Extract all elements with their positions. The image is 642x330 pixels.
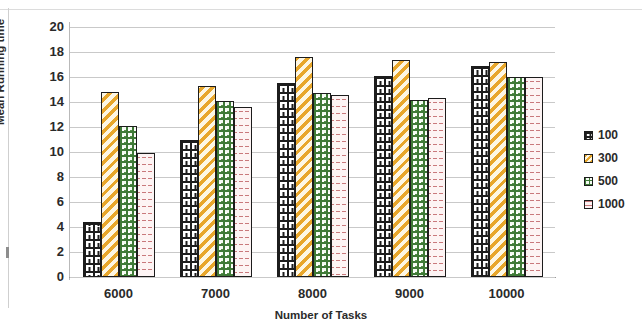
legend: 1003005001000 xyxy=(584,128,642,220)
bar-group-8000 xyxy=(264,27,361,277)
x-tick-10000: 10000 xyxy=(458,286,555,304)
legend-swatch-300-icon xyxy=(584,154,593,163)
bar-9000-300[interactable] xyxy=(392,60,410,278)
bar-10000-1000[interactable] xyxy=(525,77,543,277)
y-tick-10: 10 xyxy=(38,145,64,158)
legend-label-500: 500 xyxy=(598,175,618,187)
bar-chart: Mean Running time 20 18 16 14 12 10 8 6 … xyxy=(0,0,642,330)
x-axis-tick-labels: 600070008000900010000 xyxy=(70,286,555,304)
bar-7000-500[interactable] xyxy=(216,101,234,277)
legend-item-1000[interactable]: 1000 xyxy=(584,197,642,211)
bar-6000-100[interactable] xyxy=(83,222,101,277)
x-tick-6000: 6000 xyxy=(70,286,167,304)
bar-9000-500[interactable] xyxy=(410,100,428,278)
legend-item-500[interactable]: 500 xyxy=(584,174,642,188)
bar-10000-100[interactable] xyxy=(471,66,489,277)
bar-7000-100[interactable] xyxy=(180,140,198,278)
scan-artifact-horizontal xyxy=(0,9,642,10)
legend-item-100[interactable]: 100 xyxy=(584,128,642,142)
bar-8000-300[interactable] xyxy=(295,57,313,277)
bar-8000-1000[interactable] xyxy=(331,95,349,278)
legend-label-1000: 1000 xyxy=(598,198,625,210)
y-tick-14: 14 xyxy=(38,95,64,108)
scan-artifact-tick xyxy=(6,247,9,258)
scan-artifact-vertical xyxy=(8,8,9,308)
x-axis-title: Number of Tasks xyxy=(0,309,642,321)
bar-8000-500[interactable] xyxy=(313,93,331,277)
y-tick-0: 0 xyxy=(38,270,64,283)
bar-6000-500[interactable] xyxy=(119,126,137,277)
bar-group-7000 xyxy=(167,27,264,277)
bar-7000-300[interactable] xyxy=(198,86,216,277)
bar-group-9000 xyxy=(361,27,458,277)
bar-groups xyxy=(70,27,555,277)
y-tick-4: 4 xyxy=(38,220,64,233)
legend-label-100: 100 xyxy=(598,129,618,141)
bar-6000-300[interactable] xyxy=(101,92,119,277)
bar-7000-1000[interactable] xyxy=(234,107,252,277)
y-axis-tick-labels: 20 18 16 14 12 10 8 6 4 2 0 xyxy=(36,20,64,282)
legend-swatch-1000-icon xyxy=(584,200,593,209)
y-tick-6: 6 xyxy=(38,195,64,208)
bar-9000-1000[interactable] xyxy=(428,98,446,277)
y-axis-title: Mean Running time xyxy=(0,19,6,125)
legend-swatch-100-icon xyxy=(584,131,593,140)
bar-group-10000 xyxy=(458,27,555,277)
legend-swatch-500-icon xyxy=(584,177,593,186)
x-tick-7000: 7000 xyxy=(167,286,264,304)
x-tick-9000: 9000 xyxy=(361,286,458,304)
legend-item-300[interactable]: 300 xyxy=(584,151,642,165)
bar-10000-500[interactable] xyxy=(507,77,525,277)
y-tick-8: 8 xyxy=(38,170,64,183)
bar-9000-100[interactable] xyxy=(374,76,392,277)
y-tick-16: 16 xyxy=(38,70,64,83)
bar-8000-100[interactable] xyxy=(277,83,295,277)
legend-label-300: 300 xyxy=(598,152,618,164)
bar-10000-300[interactable] xyxy=(489,62,507,277)
bar-6000-1000[interactable] xyxy=(137,153,155,277)
gridline-0 xyxy=(70,277,555,278)
y-tick-12: 12 xyxy=(38,120,64,133)
bar-group-6000 xyxy=(70,27,167,277)
plot-area xyxy=(70,27,555,277)
x-tick-8000: 8000 xyxy=(264,286,361,304)
y-tick-2: 2 xyxy=(38,245,64,258)
y-tick-20: 20 xyxy=(38,20,64,33)
y-tick-18: 18 xyxy=(38,45,64,58)
